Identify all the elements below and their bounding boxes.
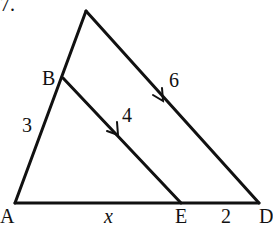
point-label-e: E	[175, 206, 187, 226]
point-label-b: B	[42, 68, 55, 88]
triangle-diagram	[0, 0, 273, 230]
segment-label-ab: 3	[22, 115, 32, 135]
point-label-a: A	[0, 206, 14, 226]
side-cd	[86, 11, 259, 203]
segment-label-ed: 2	[221, 206, 231, 226]
segment-label-ae: x	[104, 206, 113, 226]
segment-label-cd: 6	[169, 70, 179, 90]
point-label-d: D	[259, 206, 273, 226]
side-ac	[15, 11, 86, 203]
problem-number: 7.	[0, 0, 15, 14]
segment-label-be: 4	[122, 105, 132, 125]
